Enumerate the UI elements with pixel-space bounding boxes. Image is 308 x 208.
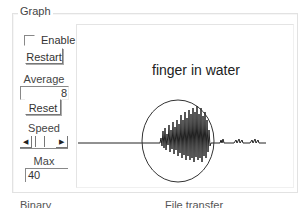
signal-plot xyxy=(0,0,308,208)
file-transfer-label: File transfer xyxy=(165,199,223,208)
binary-label: Binary xyxy=(20,199,51,208)
graph-annotation: finger in water xyxy=(152,62,240,78)
